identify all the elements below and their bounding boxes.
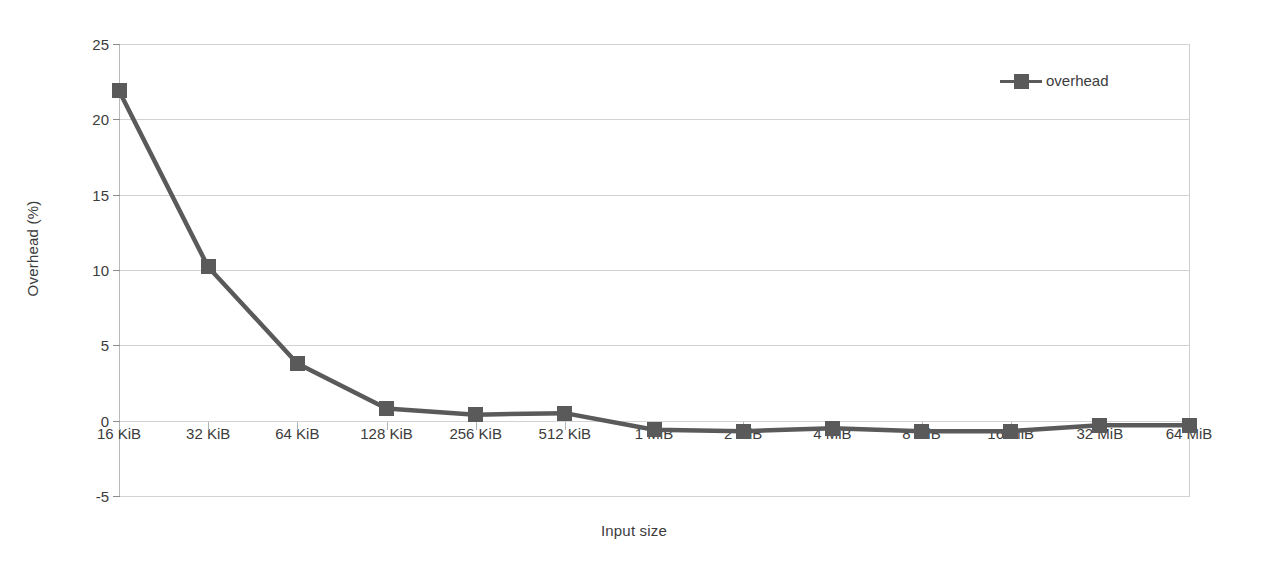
legend-marker-icon	[1000, 73, 1042, 89]
x-axis-title: Input size	[0, 522, 1268, 539]
y-tick-mark	[113, 496, 120, 497]
data-point-marker	[112, 83, 127, 98]
data-point-marker	[201, 259, 216, 274]
y-tick-label: 25	[49, 36, 109, 53]
plot-area: 2520151050-5 16 KiB32 KiB64 KiB128 KiB25…	[119, 44, 1190, 496]
legend: overhead	[1000, 72, 1109, 89]
data-point-marker	[1092, 418, 1107, 433]
gridline	[119, 496, 1190, 497]
data-point-marker	[1003, 424, 1018, 439]
line-chart: Overhead (%) 2520151050-5 16 KiB32 KiB64…	[0, 0, 1268, 577]
y-tick-label: 10	[49, 262, 109, 279]
y-tick-label: 20	[49, 111, 109, 128]
data-point-marker	[647, 422, 662, 437]
y-tick-label: 15	[49, 186, 109, 203]
data-point-marker	[379, 401, 394, 416]
data-point-marker	[557, 406, 572, 421]
data-point-marker	[736, 424, 751, 439]
data-point-marker	[1182, 418, 1197, 433]
y-tick-label: 5	[49, 337, 109, 354]
y-tick-label: -5	[49, 488, 109, 505]
data-point-marker	[290, 356, 305, 371]
y-axis-title: Overhead (%)	[24, 149, 41, 349]
legend-label-overhead: overhead	[1046, 72, 1109, 89]
data-point-marker	[825, 421, 840, 436]
data-point-marker	[468, 407, 483, 422]
data-point-marker	[914, 424, 929, 439]
